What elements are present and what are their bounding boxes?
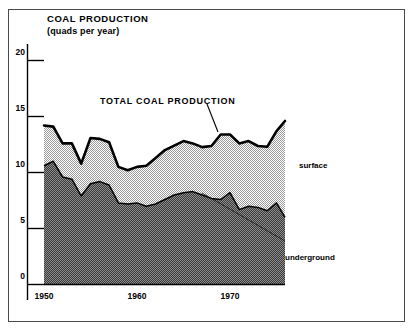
total-production-annotation: TOTAL COAL PRODUCTION — [100, 96, 236, 106]
y-axis-label-20: 20 — [3, 47, 25, 57]
series-label-underground: underground — [285, 253, 335, 262]
series-label-surface: surface — [299, 161, 327, 170]
coal-production-area-chart — [0, 0, 416, 331]
y-axis-label-15: 15 — [3, 103, 25, 113]
x-axis-label-1950: 1950 — [24, 291, 64, 301]
total-label-leader-line — [207, 104, 218, 132]
x-axis-label-1970: 1970 — [210, 291, 250, 301]
y-axis — [28, 44, 45, 300]
y-axis-label-10: 10 — [3, 159, 25, 169]
y-axis-label-0: 0 — [3, 271, 25, 281]
y-axis-label-5: 5 — [3, 215, 25, 225]
x-axis-label-1960: 1960 — [117, 291, 157, 301]
